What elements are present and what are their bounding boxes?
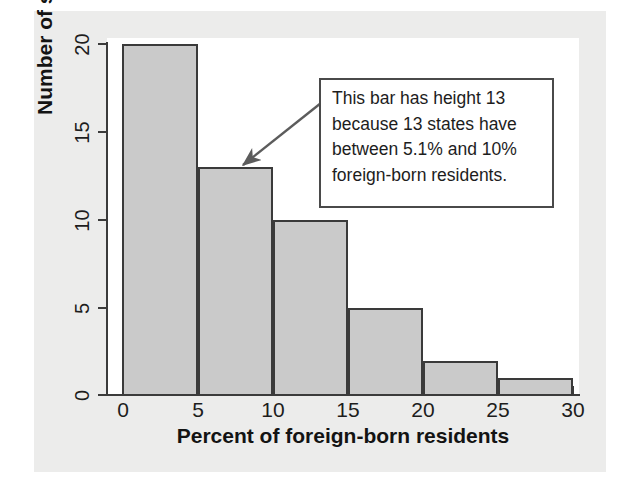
x-axis-tick-10 [272,386,274,395]
x-axis-tick-label-15: 15 [326,398,370,422]
y-axis-tick-label-20: 20 [71,25,94,65]
annotation-line-3: between 5.1% and 10% [332,137,543,163]
x-axis-tick-label-25: 25 [476,398,520,422]
histogram-bar-15-20 [348,308,423,396]
annotation-line-4: foreign-born residents. [332,163,543,189]
x-axis-tick-20 [422,386,424,395]
x-axis-tick-label-30: 30 [551,398,595,422]
x-axis-tick-30 [572,386,574,395]
x-axis-tick-label-0: 0 [101,398,145,422]
y-axis-tick-5 [98,307,107,309]
annotation-callout: This bar has height 13 because 13 states… [319,78,554,208]
x-axis-tick-0 [122,386,124,395]
y-axis-tick-label-5: 5 [71,289,94,329]
x-axis-tick-label-20: 20 [401,398,445,422]
x-axis-tick-15 [347,386,349,395]
y-axis-tick-label-15: 15 [71,113,94,153]
histogram-bar-10-15 [273,220,348,396]
annotation-line-1: This bar has height 13 [332,86,543,112]
annotation-line-2: because 13 states have [332,112,543,138]
x-axis-line [106,394,580,396]
histogram-figure: 20 15 10 5 0 0 5 10 15 20 25 30 Number o… [0,0,639,489]
x-axis-tick-25 [497,386,499,395]
y-axis-tick-0 [98,394,107,396]
x-axis-tick-label-10: 10 [251,398,295,422]
y-axis-tick-label-0: 0 [71,376,94,416]
histogram-bar-0-5 [122,44,198,396]
histogram-bar-20-25 [423,361,498,396]
y-axis-tick-15 [98,131,107,133]
y-axis-tick-label-10: 10 [71,201,94,241]
y-axis-tick-10 [98,219,107,221]
y-axis-title: Number of states [33,0,57,115]
histogram-bar-5-10 [198,167,273,396]
x-axis-title: Percent of foreign-born residents [107,424,579,448]
x-axis-tick-5 [197,386,199,395]
y-axis-tick-20 [98,43,107,45]
x-axis-tick-label-5: 5 [176,398,220,422]
